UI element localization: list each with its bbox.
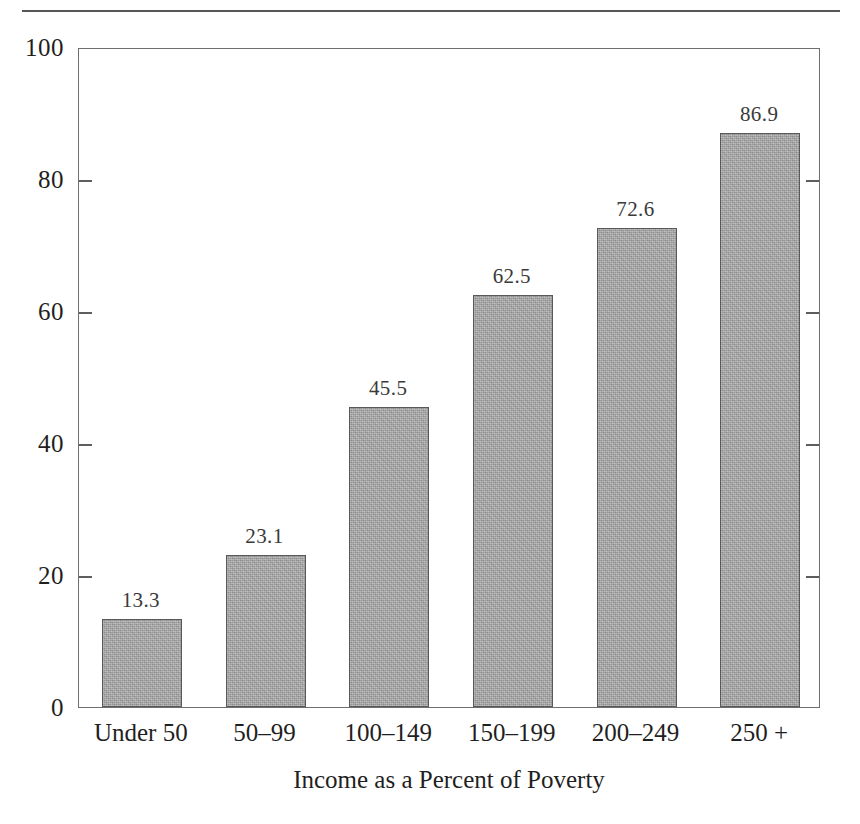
x-axis-category-label: 50–99 [195, 720, 335, 746]
y-axis-tick-label: 80 [0, 167, 64, 192]
page-top-rule [22, 10, 840, 12]
y-axis-tick-right [806, 444, 819, 445]
x-axis-title: Income as a Percent of Poverty [78, 766, 820, 794]
x-axis-category-label: 100–149 [318, 720, 458, 746]
bar [597, 228, 677, 707]
y-axis-tick-right [806, 180, 819, 181]
bar [473, 295, 553, 708]
x-axis-category-label: 200–249 [566, 720, 706, 746]
bar-value-label: 62.5 [452, 266, 572, 287]
y-axis-tick-label: 100 [0, 35, 64, 60]
y-axis-tick [79, 312, 92, 313]
x-axis-category-label: 250 + [689, 720, 829, 746]
y-axis-tick-right [806, 312, 819, 313]
y-axis-tick [79, 576, 92, 577]
y-axis-tick-label: 60 [0, 299, 64, 324]
x-axis-category-label: 150–199 [442, 720, 582, 746]
y-axis-tick-right [806, 576, 819, 577]
bar [349, 407, 429, 707]
x-axis-category-label: Under 50 [71, 720, 211, 746]
bar-chart-figure: 020406080100 Under 5050–99100–149150–199… [0, 0, 860, 824]
bar-value-label: 86.9 [699, 104, 819, 125]
bar [102, 619, 182, 707]
y-axis-tick [79, 444, 92, 445]
bar [226, 555, 306, 707]
bar-value-label: 13.3 [81, 590, 201, 611]
bar-value-label: 23.1 [205, 526, 325, 547]
y-axis-tick-label: 40 [0, 431, 64, 456]
bar-value-label: 72.6 [576, 199, 696, 220]
y-axis-tick-label: 20 [0, 563, 64, 588]
y-axis-tick-label: 0 [0, 695, 64, 720]
bar-value-label: 45.5 [328, 378, 448, 399]
bar [720, 133, 800, 707]
y-axis-tick [79, 180, 92, 181]
